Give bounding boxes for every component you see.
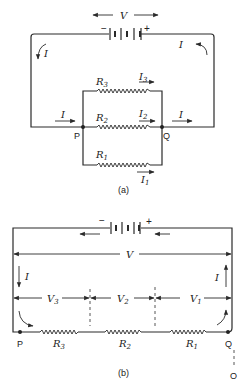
segment-voltages: V3 V2 V1 <box>14 287 231 326</box>
outer-wire-a <box>31 34 214 127</box>
outer-wire-b <box>13 228 232 332</box>
caption-b: (b) <box>118 368 129 378</box>
resistor-r3 <box>97 89 150 93</box>
battery-plus: + <box>144 23 150 34</box>
node-p-label-a: P <box>74 131 80 141</box>
node-p-a <box>81 125 85 129</box>
current-i2-label: I2 <box>138 108 148 121</box>
voltage-arrow-a: V <box>93 10 158 21</box>
node-q-label-a: Q <box>163 131 170 141</box>
resistor-r3-b-label: R3 <box>52 338 66 351</box>
node-p-label-b: P <box>17 339 23 349</box>
resistor-r3-label: R3 <box>95 76 109 89</box>
resistor-r2-b-label: R2 <box>118 338 132 351</box>
voltage-v1-label: V1 <box>190 293 202 306</box>
current-label-in: I <box>60 109 66 120</box>
current-label-b-left: I <box>24 271 30 282</box>
node-q-label-b: Q <box>225 339 232 349</box>
current-label-right: I <box>178 39 184 50</box>
node-q-a <box>160 125 164 129</box>
figure-b-series-circuit: − + V I I V3 V2 V1 <box>13 215 237 381</box>
current-label-out: I <box>178 109 184 120</box>
parallel-wires <box>83 91 162 165</box>
resistor-r1-label: R1 <box>95 149 108 162</box>
battery-b: − + <box>99 215 152 234</box>
battery-minus-b: − <box>99 215 105 226</box>
current-corner-arrow-left <box>19 311 33 326</box>
battery-minus: − <box>101 23 107 34</box>
node-q-b <box>226 330 230 334</box>
current-i1-label: I1 <box>140 174 149 187</box>
current-label-b-right: I <box>214 272 220 283</box>
resistor-r1-b-label: R1 <box>185 338 198 351</box>
voltage-v3-label: V3 <box>47 293 59 306</box>
figure-a-parallel-circuit: V − + I I I I R3 I <box>31 10 214 195</box>
circuit-figure: V − + I I I I R3 I <box>0 0 244 383</box>
current-label-left: I <box>43 48 49 59</box>
battery-plus-b: + <box>146 216 152 227</box>
voltage-label-b: V <box>126 249 135 260</box>
current-corner-arrow-right <box>217 310 226 325</box>
node-o-label: O <box>230 371 237 381</box>
caption-a: (a) <box>118 185 129 195</box>
current-arrow-right <box>196 44 207 55</box>
resistor-r1 <box>97 163 150 167</box>
battery-a: − + <box>101 23 150 40</box>
voltage-label: V <box>120 10 129 21</box>
resistor-r2 <box>97 125 150 129</box>
resistor-r2-label: R2 <box>95 112 109 125</box>
voltage-v2-label: V2 <box>117 293 129 306</box>
node-p-b <box>18 330 22 334</box>
